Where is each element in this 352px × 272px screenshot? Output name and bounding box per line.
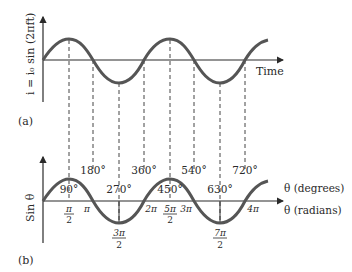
svg-text:4π: 4π: [246, 204, 260, 214]
deg-720: 720°: [232, 164, 257, 176]
svg-text:π: π: [65, 204, 73, 214]
panel-label-a: (a): [18, 115, 33, 128]
radian-tick-labels: π 2 π 3π 2 2π 5π 2 3π 7π 2 4π: [64, 204, 260, 250]
svg-text:3π: 3π: [113, 228, 126, 238]
y-axis-label-b: Sin θ: [24, 193, 37, 222]
deg-180: 180°: [80, 164, 105, 176]
sine-curve-a: [43, 39, 268, 83]
svg-text:5π: 5π: [164, 204, 177, 214]
svg-text:2: 2: [116, 240, 122, 250]
sine-wave-diagram: i = i₀ sin (2πft) Time (a) 90° 180° 270°…: [0, 0, 352, 272]
deg-270: 270°: [106, 183, 131, 195]
panel-label-b: (b): [18, 254, 34, 267]
svg-text:2: 2: [167, 215, 173, 225]
x-axis-label-time: Time: [256, 65, 284, 78]
svg-text:3π: 3π: [180, 204, 193, 214]
dashed-guides: [69, 40, 245, 223]
x-axis-label-radians: θ (radians): [284, 204, 342, 216]
deg-450: 450°: [157, 183, 182, 195]
y-axis-label-a: i = i₀ sin (2πft): [24, 13, 37, 95]
degree-tick-labels: 90° 180° 270° 360° 450° 540° 630° 720°: [60, 164, 258, 195]
panel-b: 90° 180° 270° 360° 450° 540° 630° 720° π…: [18, 157, 344, 267]
svg-text:2: 2: [66, 215, 72, 225]
svg-text:π: π: [83, 204, 91, 214]
deg-360: 360°: [131, 164, 156, 176]
deg-630: 630°: [207, 183, 232, 195]
svg-text:7π: 7π: [214, 228, 227, 238]
svg-text:2: 2: [217, 240, 223, 250]
svg-text:2π: 2π: [144, 204, 158, 214]
deg-540: 540°: [181, 164, 206, 176]
x-axis-label-degrees: θ (degrees): [284, 182, 344, 194]
deg-90: 90°: [60, 183, 79, 195]
